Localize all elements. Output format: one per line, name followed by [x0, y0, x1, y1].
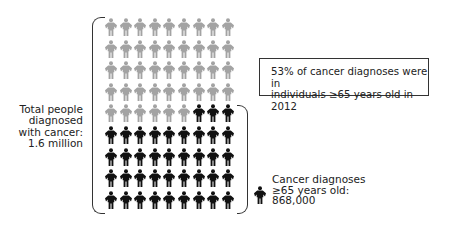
- person-icon: [105, 191, 117, 209]
- person-icon: [207, 83, 219, 101]
- person-icon: [105, 61, 117, 79]
- person-icon: [134, 104, 146, 122]
- person-icon: [163, 83, 175, 101]
- person-icon: [178, 83, 190, 101]
- person-icon: [193, 40, 205, 58]
- person-icon: [163, 148, 175, 166]
- person-icon: [222, 104, 234, 122]
- person-icon: [120, 61, 132, 79]
- person-icon: [222, 83, 234, 101]
- person-icon: [163, 169, 175, 187]
- person-icon: [193, 83, 205, 101]
- person-icon: [193, 61, 205, 79]
- person-icon: [105, 104, 117, 122]
- person-icon: [207, 126, 219, 144]
- person-icon: [134, 61, 146, 79]
- person-icon: [163, 61, 175, 79]
- person-icon: [178, 40, 190, 58]
- person-icon: [178, 148, 190, 166]
- person-icon: [222, 126, 234, 144]
- person-icon: [149, 61, 161, 79]
- person-icon: [149, 40, 161, 58]
- person-icon: [193, 18, 205, 36]
- person-icon: [222, 148, 234, 166]
- person-icon: [149, 148, 161, 166]
- person-icon: [105, 126, 117, 144]
- person-icon: [207, 148, 219, 166]
- person-icon: [120, 169, 132, 187]
- person-icon: [163, 191, 175, 209]
- person-icon: [134, 126, 146, 144]
- legend-65-plus-label: Cancer diagnoses ≥65 years old: 868,000: [272, 174, 365, 206]
- person-icon: [207, 104, 219, 122]
- person-icon: [120, 126, 132, 144]
- total-label-line: 1.6 million: [0, 138, 83, 149]
- person-icon: [193, 148, 205, 166]
- person-icon: [120, 40, 132, 58]
- person-icon: [222, 169, 234, 187]
- person-icon: [134, 148, 146, 166]
- person-icon: [163, 126, 175, 144]
- person-icon: [207, 18, 219, 36]
- person-icon: [120, 148, 132, 166]
- person-icon: [178, 104, 190, 122]
- person-icon: [105, 169, 117, 187]
- person-icon: [254, 186, 266, 204]
- person-icon: [105, 40, 117, 58]
- person-icon: [134, 18, 146, 36]
- person-icon: [178, 126, 190, 144]
- callout-box: 53% of cancer diagnoses were in individu…: [259, 58, 429, 96]
- person-icon: [163, 18, 175, 36]
- callout-line: 53% of cancer diagnoses were in: [271, 66, 428, 89]
- person-icon: [193, 104, 205, 122]
- person-icon: [193, 169, 205, 187]
- person-icon: [222, 191, 234, 209]
- person-icon: [149, 126, 161, 144]
- person-icon: [149, 169, 161, 187]
- person-icon: [149, 18, 161, 36]
- person-icon: [178, 18, 190, 36]
- person-icon: [222, 18, 234, 36]
- person-icon: [134, 191, 146, 209]
- person-icon: [105, 148, 117, 166]
- person-icon: [222, 40, 234, 58]
- person-icon: [193, 191, 205, 209]
- person-icon: [105, 18, 117, 36]
- person-icon: [120, 18, 132, 36]
- person-icon: [134, 169, 146, 187]
- person-icon: [149, 104, 161, 122]
- age-65-plus-bracket: [237, 105, 248, 214]
- person-icon: [163, 104, 175, 122]
- person-icon: [134, 40, 146, 58]
- person-icon: [134, 83, 146, 101]
- person-icon: [222, 61, 234, 79]
- person-icon: [120, 104, 132, 122]
- legend-line: 868,000: [272, 195, 365, 206]
- person-icon: [120, 191, 132, 209]
- total-label-line: diagnosed: [0, 115, 83, 126]
- person-icon: [178, 61, 190, 79]
- person-icon: [149, 191, 161, 209]
- person-icon: [207, 169, 219, 187]
- person-icon: [105, 83, 117, 101]
- person-icon: [178, 191, 190, 209]
- person-icon: [178, 169, 190, 187]
- legend-line: Cancer diagnoses: [272, 174, 365, 185]
- callout-line: individuals ≥65 years old in 2012: [271, 89, 428, 112]
- total-diagnosed-label: Total people diagnosed with cancer: 1.6 …: [0, 104, 83, 149]
- person-icon: [207, 191, 219, 209]
- person-icon: [193, 126, 205, 144]
- person-icon: [207, 40, 219, 58]
- person-icon: [163, 40, 175, 58]
- person-icon: [149, 83, 161, 101]
- person-icon: [120, 83, 132, 101]
- total-bracket: [92, 17, 105, 214]
- person-icon: [207, 61, 219, 79]
